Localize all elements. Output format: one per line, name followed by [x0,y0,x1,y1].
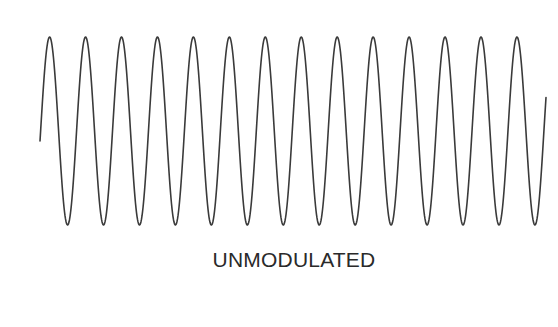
unmodulated-waveform [0,0,558,327]
waveform-caption: UNMODULATED [0,248,558,272]
carrier-sine-wave [40,37,546,225]
